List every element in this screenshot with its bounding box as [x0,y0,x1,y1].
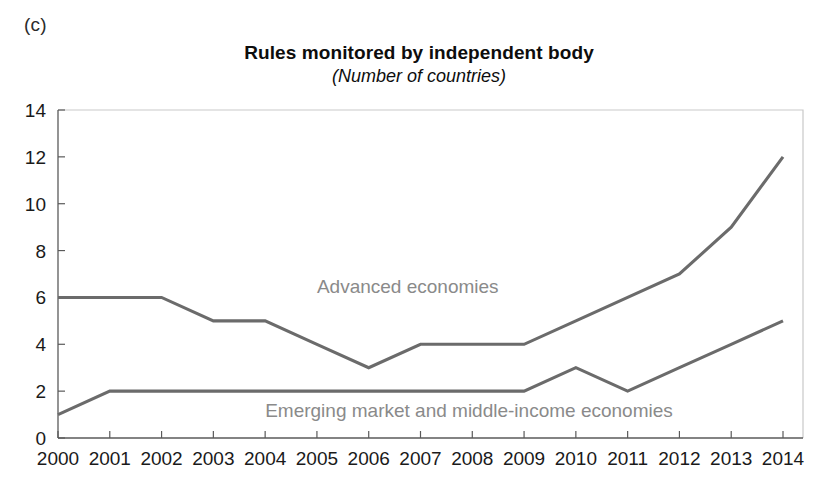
y-tick-label: 0 [35,428,46,449]
x-axis-ticks [58,431,783,438]
plot-area: 02468101214 2000200120022003200420052006… [0,0,838,487]
x-tick-label: 2011 [607,448,648,469]
x-tick-label: 2012 [658,448,700,469]
x-tick-label: 2001 [89,448,131,469]
y-tick-label: 14 [25,100,47,121]
x-tick-label: 2009 [503,448,545,469]
line-chart-svg: 02468101214 2000200120022003200420052006… [0,0,838,487]
x-tick-label: 2006 [348,448,390,469]
y-tick-label: 8 [35,241,46,262]
x-tick-label: 2005 [296,448,338,469]
x-tick-label: 2007 [399,448,441,469]
x-axis-tick-labels: 2000200120022003200420052006200720082009… [37,448,805,469]
y-tick-label: 4 [35,334,46,355]
y-axis-tick-labels: 02468101214 [25,100,47,449]
chart-figure: (c) Rules monitored by independent body … [0,0,838,487]
x-tick-label: 2003 [192,448,234,469]
x-tick-label: 2000 [37,448,79,469]
y-tick-label: 10 [25,194,46,215]
y-tick-label: 12 [25,147,46,168]
series-label: Emerging market and middle-income econom… [265,400,673,421]
y-axis-ticks [58,110,65,438]
series-label: Advanced economies [317,276,499,297]
x-tick-label: 2008 [451,448,493,469]
plot-frame [58,110,803,438]
x-tick-label: 2004 [244,448,287,469]
x-tick-label: 2010 [555,448,597,469]
x-tick-label: 2013 [710,448,752,469]
x-tick-label: 2002 [140,448,182,469]
y-tick-label: 2 [35,381,46,402]
x-tick-label: 2014 [762,448,805,469]
y-tick-label: 6 [35,287,46,308]
series-line [58,157,783,368]
